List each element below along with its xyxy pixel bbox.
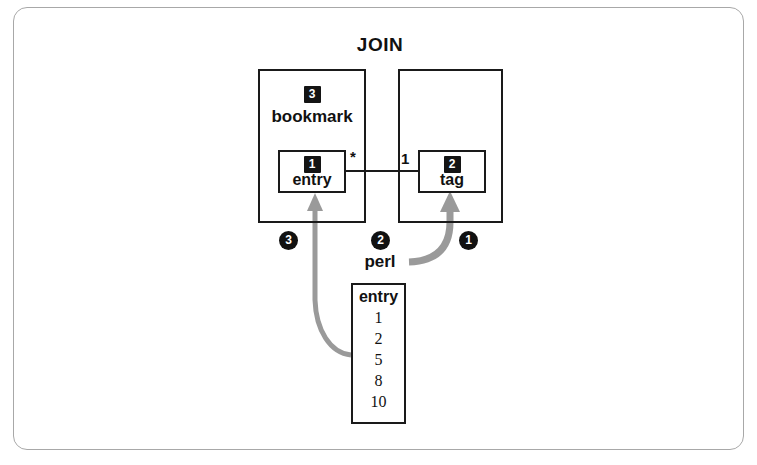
diagram-canvas: JOIN 3 bookmark 1 entry 2 tag * 1 3 2 1 … (0, 0, 757, 465)
step-marker-2: 2 (371, 231, 390, 250)
page-title: JOIN (330, 34, 430, 56)
result-table-row: 5 (353, 351, 404, 369)
entity-entry[interactable]: 1 entry (278, 150, 346, 193)
bookmark-step-badge: 3 (304, 86, 321, 103)
entity-bookmark[interactable]: 3 bookmark (258, 69, 366, 223)
process-label: perl (347, 252, 413, 272)
step-marker-3: 3 (279, 231, 298, 250)
result-table[interactable]: entry 1 2 5 8 10 (351, 283, 406, 424)
step-marker-1: 1 (459, 231, 478, 250)
entity-tag-owner[interactable] (398, 69, 503, 223)
cardinality-many: * (350, 148, 356, 165)
result-table-row: 8 (353, 372, 404, 390)
result-table-row: 1 (353, 309, 404, 327)
result-table-row: 2 (353, 330, 404, 348)
entity-bookmark-label: bookmark (260, 107, 364, 127)
result-table-header: entry (353, 288, 404, 306)
bookmark-badge-wrap: 3 (260, 84, 364, 103)
entity-tag-label: tag (420, 171, 484, 189)
result-table-row: 10 (353, 393, 404, 411)
entity-tag[interactable]: 2 tag (418, 150, 486, 193)
cardinality-one: 1 (401, 150, 409, 167)
entity-entry-label: entry (280, 171, 344, 189)
